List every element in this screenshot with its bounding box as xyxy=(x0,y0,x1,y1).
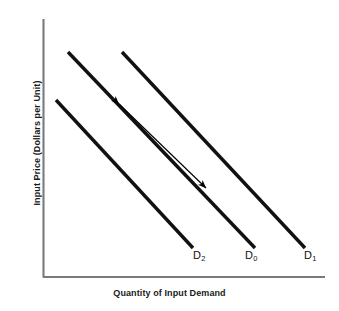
demand-curve-d0 xyxy=(68,52,255,248)
shift-arrow-annotation xyxy=(119,104,206,188)
demand-curve-d1 xyxy=(122,52,305,248)
curve-label-d2-base: D xyxy=(193,249,201,261)
chart-plot-area xyxy=(0,0,339,311)
demand-curve-d2 xyxy=(56,100,193,248)
shift-arrow-line xyxy=(119,104,206,188)
curve-label-d2: D2 xyxy=(193,249,205,261)
y-axis-label: Input Price (Dollars per Unit) xyxy=(32,43,42,243)
curve-label-d0: D0 xyxy=(245,249,257,261)
curve-label-d0-subscript: 0 xyxy=(253,254,257,263)
input-demand-chart: Input Price (Dollars per Unit) Quantity … xyxy=(0,0,339,311)
curve-label-d1-subscript: 1 xyxy=(312,254,316,263)
demand-curves-group xyxy=(56,52,305,248)
curve-label-d0-base: D xyxy=(245,249,253,261)
curve-label-d1-base: D xyxy=(304,249,312,261)
curve-label-d2-subscript: 2 xyxy=(201,254,205,263)
curve-label-d1: D1 xyxy=(304,249,316,261)
x-axis-label: Quantity of Input Demand xyxy=(0,288,339,298)
